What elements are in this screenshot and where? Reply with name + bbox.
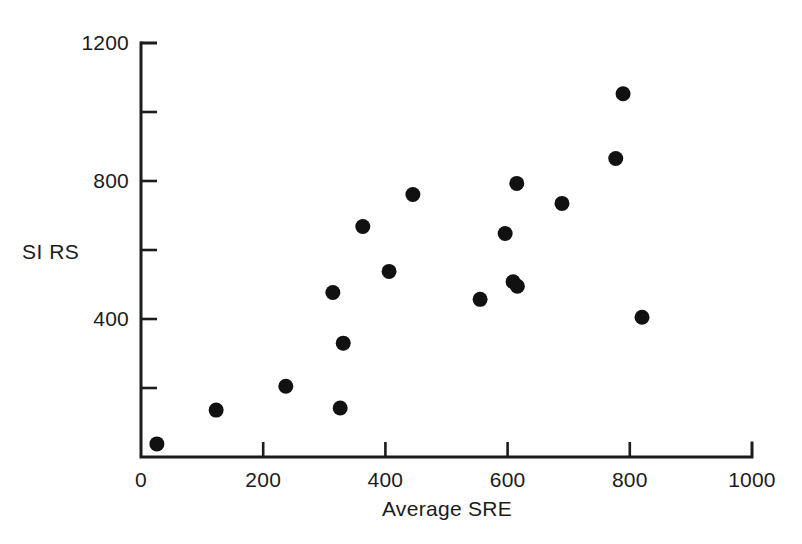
x-tick-label-0: 0 — [135, 468, 147, 492]
data-point — [325, 285, 340, 300]
data-point — [498, 226, 513, 241]
data-point — [382, 264, 397, 279]
y-tick-label-400: 400 — [40, 307, 129, 331]
ticks-group — [141, 43, 630, 457]
y-tick-label-1200: 1200 — [40, 31, 129, 55]
data-point — [510, 279, 525, 294]
axis-spine — [141, 43, 752, 457]
data-point — [608, 151, 623, 166]
data-point — [616, 86, 631, 101]
x-axis-label: Average SRE — [382, 497, 512, 521]
data-point — [405, 187, 420, 202]
data-point — [473, 292, 488, 307]
x-tick-label-800: 800 — [612, 468, 648, 492]
y-tick-label-800: 800 — [40, 169, 129, 193]
scatter-plot-figure: 4008001200 02004006008001000 SI RS Avera… — [0, 0, 802, 544]
x-tick-label-200: 200 — [245, 468, 281, 492]
data-point — [149, 436, 164, 451]
data-point — [336, 336, 351, 351]
data-point — [355, 219, 370, 234]
data-point — [509, 176, 524, 191]
x-tick-label-400: 400 — [368, 468, 404, 492]
y-axis-label: SI RS — [22, 240, 79, 264]
data-point — [278, 379, 293, 394]
data-point — [635, 310, 650, 325]
axes-group — [141, 43, 752, 457]
plot-canvas — [0, 0, 802, 544]
data-markers-group — [149, 86, 649, 451]
data-point — [209, 403, 224, 418]
data-point — [333, 401, 348, 416]
x-tick-label-1000: 1000 — [728, 468, 776, 492]
data-point — [554, 196, 569, 211]
x-tick-label-600: 600 — [490, 468, 526, 492]
